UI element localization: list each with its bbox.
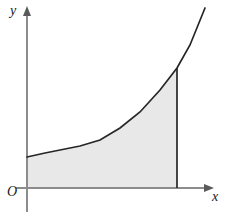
- y-axis-label: y: [10, 4, 16, 18]
- x-axis-label: x: [212, 190, 218, 204]
- figure-container: y x O: [0, 0, 229, 218]
- shaded-area-region: [27, 68, 177, 188]
- area-under-curve-chart: [0, 0, 229, 218]
- origin-label: O: [7, 185, 17, 199]
- y-axis-arrowhead-icon: [23, 6, 31, 16]
